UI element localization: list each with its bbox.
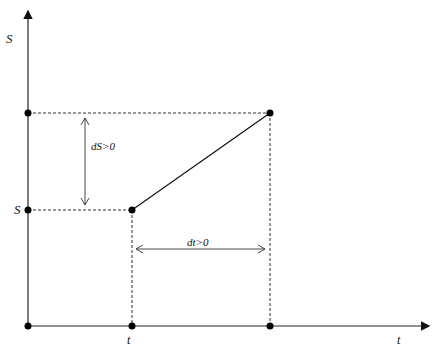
point-t-end: [267, 323, 274, 330]
point-t: [129, 323, 136, 330]
dt-label: dt>0: [187, 236, 208, 248]
t-tick-label: t: [127, 333, 130, 348]
point-s-S: [25, 207, 32, 214]
ds-label: dS>0: [91, 140, 115, 152]
point-start: [129, 207, 136, 214]
point-end: [267, 110, 274, 117]
change-line: [132, 113, 270, 210]
y-axis-label: S: [6, 31, 13, 47]
point-s-upper: [25, 110, 32, 117]
point-origin: [25, 323, 32, 330]
diagram-canvas: [0, 0, 442, 352]
s-tick-label: S: [14, 202, 21, 218]
x-axis-label: t: [397, 333, 400, 348]
ds-arrow: [81, 118, 89, 205]
